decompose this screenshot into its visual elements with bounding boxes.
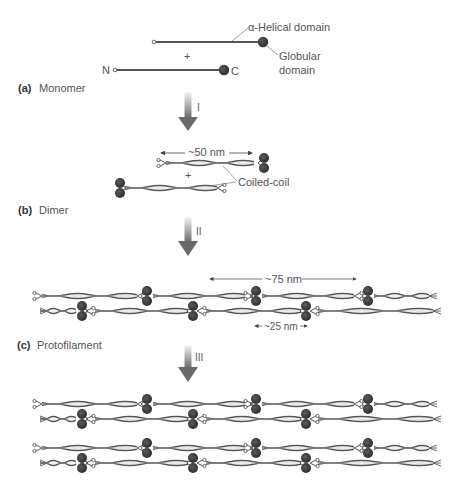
repeat-distance-label: ~75 nm [265,273,302,285]
globular-domain-label-1: Globular [279,50,321,62]
globular-domain [258,37,268,47]
stagger-distance-label: ~25 nm [264,321,298,332]
coiled-coil-leader-1 [223,166,237,181]
protofilament-b-strand-1 [33,438,437,458]
helical-leader-line [232,28,248,41]
dimer-length-label: ~50 nm [188,146,225,158]
intermediate-filament-assembly-diagram: α-Helical domain Globular domain + N C (… [0,0,459,495]
step-3-label: III [195,352,203,363]
protofilament-strand-1 [33,286,437,306]
step-2-label: II [196,226,202,237]
panel-a-title: Monomer [39,82,86,94]
panel-b-title: Dimer [39,204,69,216]
n-terminus-label: N [102,64,110,76]
panel-c-protofilament: ~75 nm ~25 nm (c) Protofilament [17,272,441,351]
globular-domain [219,65,229,75]
panel-a-letter: (a) [18,82,32,94]
panel-c-title: Protofilament [37,339,102,351]
dimer-plus-sign: + [185,169,191,181]
n-terminus-marker [152,40,156,44]
protofilament-a-strand-2 [40,409,441,429]
helical-domain-label: α-Helical domain [248,21,330,33]
step-1-label: I [197,102,200,113]
protofilament-b-strand-2 [40,453,441,473]
coiled-coil-label: Coiled-coil [238,176,289,188]
dimer-2 [115,178,226,198]
step-arrow-3: III [178,345,203,382]
panel-c-letter: (c) [17,339,31,351]
protofibril-assembly [33,394,441,473]
globular-leader-line [267,46,278,55]
monomer-plus-sign: + [184,50,190,62]
monomer-2: N C [102,64,239,77]
protofilament-strand-2 [40,301,441,321]
step-arrow-2: II [178,217,202,256]
step-arrow-1: I [178,92,200,131]
panel-a-monomer: α-Helical domain Globular domain + N C (… [18,21,330,94]
globular-domain-label-2: domain [279,64,315,76]
panel-b-letter: (b) [18,204,32,216]
panel-b-dimer: ~50 nm + Coiled-coil (b) Dimer [18,146,289,216]
monomer-1: α-Helical domain Globular domain [152,21,330,76]
n-terminus-marker [113,68,117,72]
c-terminus-label: C [231,65,239,77]
protofilament-a-strand-1 [33,394,437,414]
